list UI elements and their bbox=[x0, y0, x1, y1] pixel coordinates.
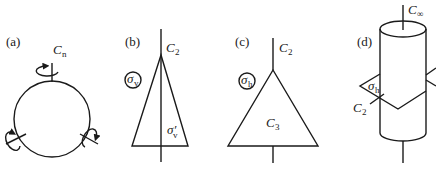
panel-a: (a) Cn bbox=[6, 34, 98, 157]
svg-text:h: h bbox=[375, 85, 380, 95]
panel-c: (c) C2 σ h C3 bbox=[228, 34, 318, 163]
panel-d-label: (d) bbox=[357, 34, 372, 49]
c2-axis-label: C2 bbox=[279, 40, 293, 57]
panel-d: (d) C∞ σ h C2 bbox=[353, 2, 436, 163]
cn-axis-label: Cn bbox=[53, 42, 67, 59]
symmetry-diagram: (a) Cn (b) C2 σ v σ′ v (c) C2 bbox=[0, 0, 436, 174]
circle-shape bbox=[14, 81, 90, 157]
svg-text:C: C bbox=[53, 42, 62, 57]
svg-text:3: 3 bbox=[275, 122, 280, 132]
svg-text:h: h bbox=[248, 79, 253, 89]
sigma-h-label: σ bbox=[241, 72, 248, 87]
c2-axis-label: C2 bbox=[353, 100, 367, 117]
panel-c-label: (c) bbox=[235, 34, 249, 49]
svg-text:C: C bbox=[279, 40, 288, 55]
isosceles-triangle bbox=[132, 55, 188, 146]
c3-axis-label: C3 bbox=[266, 115, 280, 132]
c2-axis-right bbox=[426, 68, 436, 75]
svg-text:∞: ∞ bbox=[417, 9, 423, 19]
cylinder-bottom bbox=[380, 133, 426, 141]
svg-text:2: 2 bbox=[175, 47, 180, 57]
panel-b: (b) C2 σ v σ′ v bbox=[125, 29, 188, 162]
cinf-axis-label: C∞ bbox=[408, 2, 423, 19]
svg-text:C: C bbox=[353, 100, 362, 115]
svg-text:C: C bbox=[408, 2, 417, 17]
svg-text:v: v bbox=[134, 78, 139, 88]
panel-a-label: (a) bbox=[6, 34, 20, 49]
svg-text:2: 2 bbox=[362, 107, 367, 117]
svg-text:C: C bbox=[266, 115, 275, 130]
svg-text:n: n bbox=[62, 49, 67, 59]
sigma-h-plane-right-edge bbox=[426, 80, 436, 86]
sigma-v-label: σ bbox=[127, 71, 134, 86]
panel-b-label: (b) bbox=[125, 34, 140, 49]
svg-text:v: v bbox=[173, 130, 178, 140]
svg-text:C: C bbox=[166, 40, 175, 55]
c2-axis-label: C2 bbox=[166, 40, 180, 57]
sigma-h-label: σ bbox=[368, 78, 375, 93]
svg-text:2: 2 bbox=[288, 47, 293, 57]
rotation-arrow-icon bbox=[36, 66, 58, 76]
